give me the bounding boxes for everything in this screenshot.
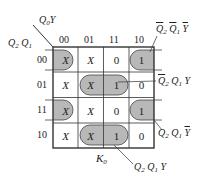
cell-r2-c2: 0 [104, 98, 129, 123]
row-header-11: 11 [37, 105, 47, 115]
row-variables-label: Q2 Q1 [8, 38, 32, 48]
cell-r0-c3: 1 [129, 47, 154, 72]
cell-r0-c1: X [78, 47, 103, 72]
row-header-01: 01 [37, 80, 47, 90]
row-header-10: 10 [37, 130, 47, 140]
col-header-10: 10 [134, 35, 144, 45]
cell-r1-c1: X [78, 72, 103, 97]
cell-r3-c2: 1 [104, 123, 129, 148]
col-header-11: 11 [109, 35, 119, 45]
cell-r2-c3: 1 [129, 98, 154, 123]
col-header-01: 01 [84, 35, 94, 45]
corner-diagonal [33, 25, 53, 47]
cell-r1-c2: 1 [104, 72, 129, 97]
row-header-00: 00 [37, 55, 47, 65]
col-variables-label: Q0Y [39, 15, 55, 25]
term-label-q2-q1-not-y: Q2 Q1 Y [158, 128, 190, 138]
cell-r0-c2: 0 [104, 47, 129, 72]
cell-r1-c0: X [53, 72, 78, 97]
cell-r1-c3: 0 [129, 72, 154, 97]
term-label-q2-q1-y: Q2 Q1 Y [134, 162, 166, 172]
term-label-not-q2-not-q1-not-y: Q2 Q1 Y [156, 24, 188, 34]
map-name-label: K0 [96, 153, 107, 163]
col-header-00: 00 [59, 35, 69, 45]
term-label-not-q2-q1-y: Q2 Q1 Y [158, 76, 190, 86]
cell-r3-c3: 0 [129, 123, 154, 148]
cell-r0-c0: X [53, 47, 78, 72]
cell-r2-c1: X [78, 98, 103, 123]
cell-r3-c1: X [78, 123, 103, 148]
cell-r3-c0: X [53, 123, 78, 148]
cell-r2-c0: X [53, 98, 78, 123]
